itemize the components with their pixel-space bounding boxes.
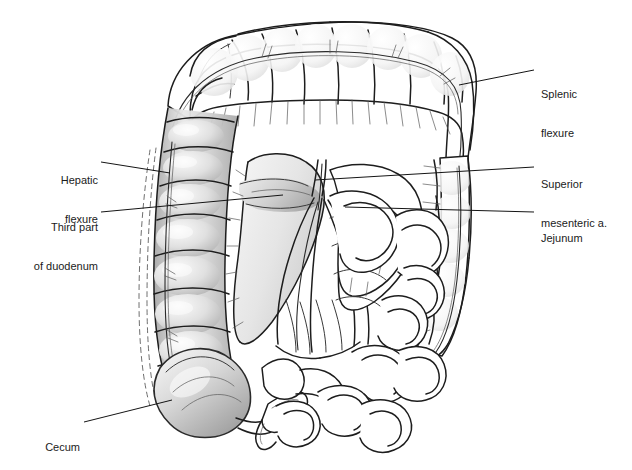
label-third-part-of-duodenum-line-1: Third part [0, 221, 98, 234]
label-jejunum: Jejunum [541, 206, 583, 271]
label-superior-mesenteric-artery-line-1: Superior [541, 178, 607, 191]
leader-cecum [84, 400, 172, 422]
label-hepatic-flexure-line-1: Hepatic [0, 174, 98, 187]
label-jejunum-line-1: Jejunum [541, 232, 583, 245]
label-third-part-of-duodenum: Third part of duodenum [0, 195, 98, 299]
label-cecum: Cecum [0, 415, 80, 470]
anatomy-figure: Splenic flexure Superior mesenteric a. J… [0, 0, 632, 470]
label-splenic-flexure-line-1: Splenic [541, 88, 577, 101]
label-splenic-flexure-line-2: flexure [541, 127, 577, 140]
label-splenic-flexure: Splenic flexure [541, 62, 577, 166]
label-cecum-line-1: Cecum [0, 441, 80, 454]
label-third-part-of-duodenum-line-2: of duodenum [0, 260, 98, 273]
